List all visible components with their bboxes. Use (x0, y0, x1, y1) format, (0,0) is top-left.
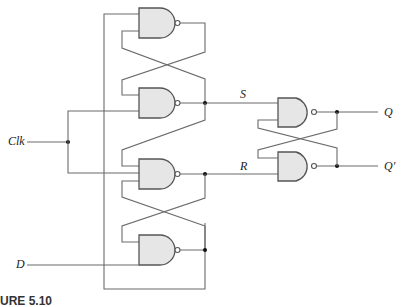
clk-label: Clk (8, 134, 25, 148)
nand-gate-3 (139, 159, 180, 189)
q-label: Q (384, 105, 393, 119)
nand-gate-2 (139, 88, 180, 118)
gate4-output-wire (180, 226, 205, 250)
r-label: R (239, 159, 248, 173)
nand-gate-1 (139, 8, 180, 38)
d-flip-flop-diagram: Clk D S R Q Q′ URE 5.10 (0, 0, 403, 307)
figure-caption: URE 5.10 (0, 294, 52, 307)
q-prime-label: Q′ (384, 159, 396, 173)
s-label: S (240, 87, 246, 101)
junction-gate4-out (203, 248, 207, 252)
nand-gate-5 (278, 98, 317, 127)
nand-gate-6 (278, 152, 317, 181)
d-label: D (15, 257, 25, 271)
nand-gate-4 (139, 235, 180, 265)
